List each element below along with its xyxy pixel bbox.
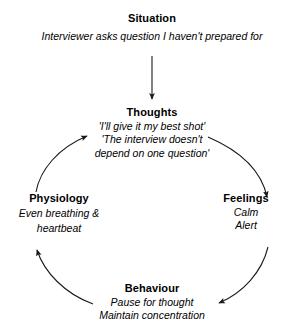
node-situation: Situation Interviewer asks question I ha… — [0, 12, 304, 42]
feelings-line-2: Alert — [196, 219, 296, 231]
behaviour-title: Behaviour — [77, 282, 227, 295]
thoughts-line-1: 'I'll give it my best shot' — [52, 120, 252, 132]
thoughts-line-3: depend on one question' — [52, 147, 252, 159]
feelings-line-1: Calm — [196, 206, 296, 218]
thoughts-title: Thoughts — [52, 106, 252, 119]
node-physiology: Physiology Even breathing & heartbeat — [4, 192, 114, 235]
node-feelings: Feelings Calm Alert — [196, 192, 296, 232]
physiology-title: Physiology — [4, 192, 114, 205]
thoughts-line-2: 'The interview doesn't — [52, 133, 252, 145]
physiology-line-1: Even breathing & — [4, 207, 114, 220]
behaviour-line-2: Maintain concentration — [77, 309, 227, 321]
cbt-cycle-diagram: Situation Interviewer asks question I ha… — [0, 0, 304, 336]
feelings-title: Feelings — [196, 192, 296, 205]
situation-description: Interviewer asks question I haven't prep… — [0, 30, 304, 42]
physiology-line-2: heartbeat — [4, 222, 114, 235]
behaviour-line-1: Pause for thought — [77, 296, 227, 308]
node-behaviour: Behaviour Pause for thought Maintain con… — [77, 282, 227, 322]
node-thoughts: Thoughts 'I'll give it my best shot' 'Th… — [52, 106, 252, 159]
situation-title: Situation — [0, 12, 304, 25]
